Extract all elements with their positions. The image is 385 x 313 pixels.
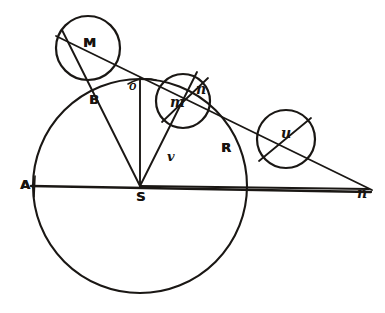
label-point-o: o [129, 80, 136, 92]
ray-S-through-circle-m [140, 72, 197, 186]
label-point-A: A [20, 178, 30, 191]
label-axis-right-n: n [357, 186, 367, 200]
label-point-S: S [136, 190, 145, 203]
label-circle-n-inner: n [196, 82, 206, 96]
label-point-R: R [221, 141, 231, 154]
figure-canvas [0, 0, 385, 313]
label-circle-m: m [170, 95, 185, 109]
label-circle-M: M [83, 36, 96, 49]
ray-S-to-M [62, 30, 140, 186]
label-ray-v: v [167, 150, 175, 163]
label-point-B: B [89, 93, 99, 106]
tick-at-A [34, 176, 35, 197]
label-circle-u: u [281, 126, 291, 140]
geometric-figure: M o B m n u v R A S n [0, 0, 385, 313]
